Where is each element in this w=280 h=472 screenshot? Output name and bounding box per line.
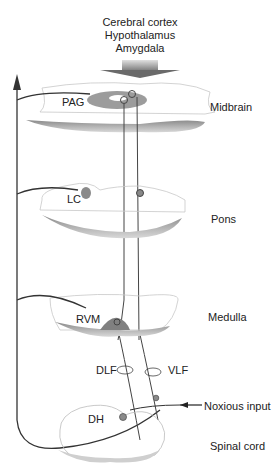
noxious-input-arrow [180,402,202,408]
medulla-label: Medulla [208,311,247,323]
top-input-label-1: Cerebral cortex [90,16,190,28]
lc-label: LC [67,193,81,205]
vlf-tract-marker [145,368,161,376]
noxious-input-label: Noxious input [204,400,271,412]
rvm-label: RVM [76,313,100,325]
pag-label: PAG [62,96,84,108]
midbrain-label: Midbrain [210,101,252,113]
descending-input-arrow [100,60,180,78]
spinal-cord-label: Spinal cord [210,440,265,452]
top-input-label-3: Amygdala [90,42,190,54]
pons-section [40,183,185,238]
vlf-label: VLF [168,364,188,376]
dh-label: DH [88,413,104,425]
medulla-projection-line [17,296,86,309]
top-input-label-2: Hypothalamus [90,29,190,41]
pons-label: Pons [211,213,236,225]
spinal-cord-section [58,395,180,462]
dlf-tract-marker [117,366,133,374]
descending-tracts [118,97,158,440]
dlf-label: DLF [96,364,117,376]
midbrain-section [26,83,215,133]
